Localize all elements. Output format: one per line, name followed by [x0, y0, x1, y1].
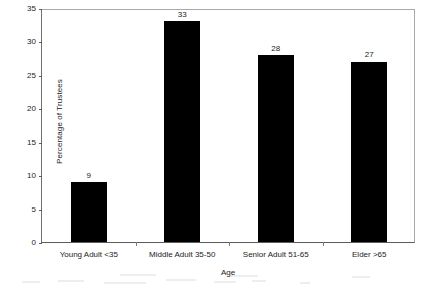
y-axis-title: Percentage of Trustees: [55, 12, 64, 232]
bar-chart-figure: Percentage of Trustees 05101520253035 93…: [0, 0, 425, 290]
y-tick-mark: [39, 243, 42, 244]
y-tick-label: 35: [27, 4, 36, 13]
bar: [258, 55, 294, 242]
x-tick-mark: [229, 242, 230, 246]
y-tick-label: 0: [32, 238, 36, 247]
y-tick-mark: [39, 143, 42, 144]
plot-area: Percentage of Trustees 05101520253035 93…: [41, 9, 415, 243]
x-tick-mark: [323, 242, 324, 246]
bar-value-label: 33: [178, 10, 187, 19]
y-tick-mark: [39, 76, 42, 77]
x-axis-title: Age: [41, 268, 415, 277]
y-tick-mark: [39, 9, 42, 10]
y-tick-label: 5: [32, 205, 36, 214]
y-tick-mark: [39, 210, 42, 211]
y-tick-label: 20: [27, 104, 36, 113]
y-tick-mark: [39, 109, 42, 110]
bar: [71, 182, 107, 242]
x-category-label: Middle Adult 35-50: [149, 250, 215, 259]
bar: [164, 21, 200, 242]
x-tick-mark: [136, 242, 137, 246]
x-category-label: Young Adult <35: [60, 250, 118, 259]
bar-value-label: 28: [271, 44, 280, 53]
y-tick-label: 25: [27, 71, 36, 80]
y-tick-label: 10: [27, 171, 36, 180]
bar-value-label: 9: [87, 171, 91, 180]
x-category-label: Senior Adult 51-65: [243, 250, 309, 259]
bar-value-label: 27: [365, 50, 374, 59]
x-category-label: Elder >65: [352, 250, 386, 259]
y-tick-mark: [39, 176, 42, 177]
y-tick-label: 15: [27, 138, 36, 147]
bar: [351, 62, 387, 243]
y-tick-label: 30: [27, 37, 36, 46]
y-tick-mark: [39, 42, 42, 43]
